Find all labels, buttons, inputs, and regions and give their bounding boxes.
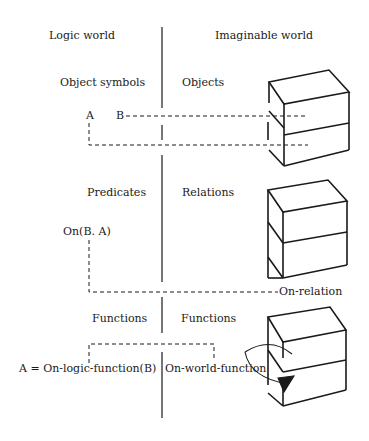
block-stack-relations — [268, 180, 347, 278]
heading-functions-world: Functions — [181, 313, 236, 324]
symbol-a: A — [86, 110, 94, 121]
header-logic-world: Logic world — [49, 30, 115, 41]
symbol-b: B — [116, 110, 124, 121]
header-imaginable-world: Imaginable world — [215, 30, 313, 41]
heading-object-symbols: Object symbols — [60, 77, 145, 88]
dashed-link-function — [89, 344, 214, 363]
block-stack-objects — [268, 70, 349, 166]
world-function-label: On-world-function — [165, 363, 266, 374]
dashed-link-on — [89, 240, 278, 292]
on-relation-label: On-relation — [279, 286, 342, 297]
predicate-expression: On(B. A) — [63, 226, 111, 237]
block-stack-functions — [268, 307, 346, 406]
heading-functions-logic: Functions — [92, 313, 147, 324]
heading-objects: Objects — [182, 77, 224, 88]
heading-predicates: Predicates — [87, 187, 146, 198]
logic-function-expression: A = On-logic-function(B) — [19, 363, 156, 374]
dashed-link-a — [89, 123, 308, 145]
heading-relations: Relations — [182, 187, 234, 198]
